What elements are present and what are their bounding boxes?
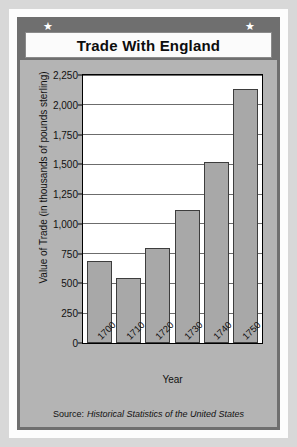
y-tick-label: 1,000 <box>53 218 78 229</box>
bar-1750 <box>233 89 258 343</box>
title-box: Trade With England <box>25 32 272 58</box>
y-tick-label: 1,500 <box>53 159 78 170</box>
y-tick-label: 1,250 <box>53 189 78 200</box>
y-tick-label: 2,250 <box>53 70 78 81</box>
plot-area: 02505007501,0001,2501,5001,7502,0002,250 <box>82 74 263 344</box>
y-tick-mark <box>78 75 83 76</box>
y-tick-label: 750 <box>61 248 78 259</box>
source-prefix: Source: <box>53 409 84 419</box>
source-note: Source: Historical Statistics of the Uni… <box>20 401 277 427</box>
header-band: ★ ★ Trade With England <box>20 20 277 60</box>
y-tick-label: 0 <box>72 338 78 349</box>
y-tick-label: 250 <box>61 308 78 319</box>
y-tick-mark <box>78 313 83 314</box>
chart-frame: ★ ★ Trade With England Value of Trade (i… <box>17 17 280 430</box>
star-icon-right: ★ <box>244 21 255 32</box>
y-tick-mark <box>78 283 83 284</box>
y-tick-mark <box>78 223 83 224</box>
page-title: Trade With England <box>77 37 220 54</box>
y-tick-mark <box>78 134 83 135</box>
y-axis-label: Value of Trade (in thousands of pounds s… <box>38 63 49 293</box>
y-tick-label: 1,750 <box>53 129 78 140</box>
star-icon-left: ★ <box>42 21 53 32</box>
y-tick-mark <box>78 194 83 195</box>
y-tick-label: 2,000 <box>53 99 78 110</box>
y-tick-mark <box>78 343 83 344</box>
chart-card: ★ ★ Trade With England Value of Trade (i… <box>9 9 288 438</box>
y-tick-label: 500 <box>61 278 78 289</box>
y-tick-mark <box>78 164 83 165</box>
source-title: Historical Statistics of the United Stat… <box>87 409 244 419</box>
y-tick-mark <box>78 253 83 254</box>
y-tick-mark <box>78 104 83 105</box>
bar-1740 <box>204 162 229 343</box>
chart-panel: Value of Trade (in thousands of pounds s… <box>20 60 277 401</box>
x-axis-label: Year <box>82 374 263 385</box>
bar-series <box>85 75 260 343</box>
